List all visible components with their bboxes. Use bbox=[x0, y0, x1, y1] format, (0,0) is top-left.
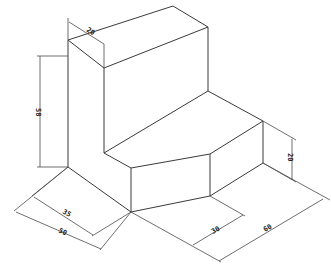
dimension-length: 30 60 bbox=[131, 163, 330, 262]
isometric-drawing: 20 58 35 50 30 60 20 bbox=[0, 0, 331, 274]
dim-label-top-depth: 20 bbox=[85, 26, 96, 37]
dim-label-overall-length: 60 bbox=[262, 223, 273, 234]
dim-label-upper-height: 58 bbox=[34, 108, 42, 116]
dimension-step-height: 20 bbox=[263, 121, 296, 182]
dim-label-step-height: 20 bbox=[286, 153, 294, 161]
dimension-base-width: 35 50 bbox=[14, 167, 131, 250]
dimension-top-depth: 20 bbox=[68, 18, 104, 68]
dim-label-base-width-inner: 35 bbox=[61, 208, 72, 219]
dimension-upper-height: 58 bbox=[34, 56, 68, 167]
object-edges bbox=[68, 6, 263, 212]
dim-label-base-width-outer: 50 bbox=[57, 227, 68, 238]
